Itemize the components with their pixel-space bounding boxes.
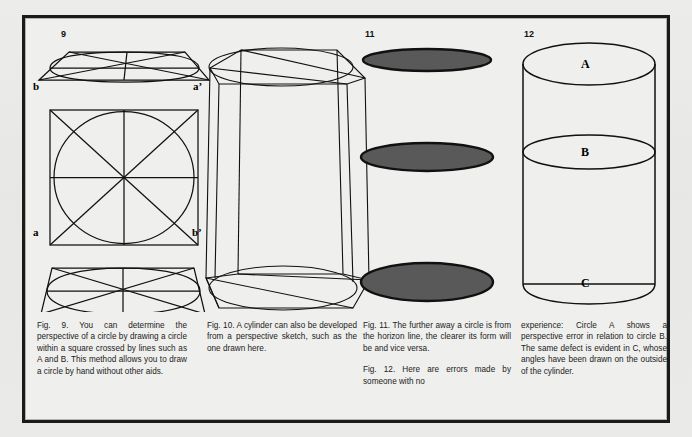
caption-figure-11: Fig. 11. The further away a circle is fr… xyxy=(363,320,511,387)
caption-figure-10-paragraph-1: Fig. 10. A cylinder can also be develope… xyxy=(207,320,357,354)
caption-figure-9: Fig. 9. You can determine the perspectiv… xyxy=(37,320,187,377)
caption-figure-12-paragraph-1: experience: Circle A shows a perspective… xyxy=(521,320,667,377)
book-page: 9 xyxy=(0,0,692,437)
fig9-corner-label-a: a xyxy=(33,226,39,238)
caption-figure-11-paragraph-1: Fig. 11. The further away a circle is fr… xyxy=(363,320,511,354)
fig10-vertical-edges xyxy=(206,50,369,282)
fig9-square-with-circle xyxy=(50,110,198,245)
fig12-label-b: B xyxy=(581,145,589,160)
page-frame: 9 xyxy=(22,15,670,423)
fig12-label-c: C xyxy=(581,276,590,291)
figure-12-artwork xyxy=(507,32,672,317)
fig11-ellipse-top xyxy=(363,49,491,71)
fig11-ellipse-middle xyxy=(361,143,493,171)
caption-figure-12: experience: Circle A shows a perspective… xyxy=(521,320,667,377)
fig10-bottom-square xyxy=(206,274,369,308)
fig10-bottom-ellipse xyxy=(209,266,357,310)
fig10-top-square xyxy=(210,50,365,84)
caption-figure-11-paragraph-2: Fig. 12. Here are errors made by someone… xyxy=(363,364,511,387)
caption-figure-9-paragraph-1: Fig. 9. You can determine the perspectiv… xyxy=(37,320,187,377)
figure-10-artwork xyxy=(197,32,372,312)
fig11-ellipse-bottom xyxy=(361,263,493,301)
fig10-top-ellipse xyxy=(209,48,353,86)
fig9-bottom-trapezoid xyxy=(41,268,205,312)
fig12-label-a: A xyxy=(581,57,590,72)
fig9-corner-label-b: b xyxy=(33,80,39,92)
figure-11-artwork xyxy=(355,32,515,312)
figure-9-artwork xyxy=(25,32,215,312)
caption-figure-10: Fig. 10. A cylinder can also be develope… xyxy=(207,320,357,354)
fig9-top-trapezoid xyxy=(39,52,209,82)
